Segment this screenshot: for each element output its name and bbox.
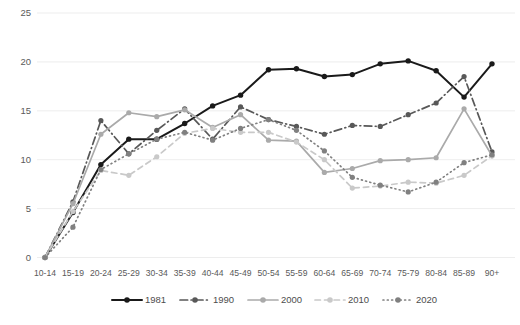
data-point bbox=[266, 130, 271, 135]
y-axis-tick-label: 5 bbox=[26, 203, 31, 214]
data-point bbox=[461, 173, 466, 178]
x-axis-tick-label: 35-39 bbox=[174, 268, 196, 278]
data-point bbox=[266, 117, 271, 122]
x-axis-tick-label: 70-74 bbox=[369, 268, 391, 278]
x-axis-tick-label: 20-24 bbox=[90, 268, 112, 278]
x-axis-tick-label: 15-19 bbox=[62, 268, 84, 278]
data-point bbox=[70, 201, 75, 206]
data-point bbox=[266, 138, 271, 143]
data-point bbox=[238, 112, 243, 117]
data-point bbox=[378, 124, 383, 129]
y-axis-tick-label: 20 bbox=[20, 56, 31, 67]
legend-item-2000[interactable]: 2000 bbox=[248, 294, 302, 305]
data-point bbox=[461, 160, 466, 165]
series-line-1990 bbox=[45, 77, 492, 258]
x-axis-tick-label: 55-59 bbox=[285, 268, 307, 278]
legend-swatch-marker bbox=[260, 297, 266, 303]
data-point bbox=[266, 67, 271, 72]
data-point bbox=[322, 74, 327, 79]
data-point bbox=[378, 61, 383, 66]
series-2000 bbox=[42, 106, 494, 260]
y-axis-tick-label: 0 bbox=[26, 252, 31, 263]
data-point bbox=[322, 157, 327, 162]
legend-swatch-marker bbox=[124, 297, 130, 303]
series-line-2010 bbox=[45, 128, 492, 257]
legend-label: 1981 bbox=[145, 294, 166, 305]
data-point bbox=[350, 72, 355, 77]
data-point bbox=[406, 157, 411, 162]
data-point bbox=[350, 166, 355, 171]
data-point bbox=[42, 255, 47, 260]
data-point bbox=[434, 155, 439, 160]
data-point bbox=[350, 123, 355, 128]
legend-label: 1990 bbox=[213, 294, 234, 305]
data-point bbox=[154, 137, 159, 142]
chart-legend: 19811990200020102020 bbox=[112, 294, 437, 305]
legend-label: 2000 bbox=[281, 294, 302, 305]
data-point bbox=[70, 209, 75, 214]
x-axis-tick-label: 10-14 bbox=[34, 268, 56, 278]
data-point bbox=[378, 158, 383, 163]
data-point bbox=[461, 94, 466, 99]
data-point bbox=[433, 68, 438, 73]
data-point bbox=[210, 126, 215, 131]
data-point bbox=[98, 162, 103, 167]
x-axis-tick-label: 85-89 bbox=[453, 268, 475, 278]
legend-item-1981[interactable]: 1981 bbox=[112, 294, 166, 305]
line-chart: 0510152025 10-1415-1920-2425-2930-3435-3… bbox=[0, 0, 520, 325]
data-point bbox=[378, 183, 383, 188]
data-point bbox=[434, 180, 439, 185]
x-axis-tick-label: 80-84 bbox=[425, 268, 447, 278]
x-axis-tick-label: 50-54 bbox=[258, 268, 280, 278]
x-axis-tick-labels: 10-1415-1920-2425-2930-3435-3940-4445-49… bbox=[34, 268, 499, 278]
x-axis-tick-label: 75-79 bbox=[397, 268, 419, 278]
data-point bbox=[294, 128, 299, 133]
legend-item-1990[interactable]: 1990 bbox=[180, 294, 234, 305]
legend-swatch-marker bbox=[327, 297, 333, 303]
data-point bbox=[489, 61, 494, 66]
data-point bbox=[322, 170, 327, 175]
data-point bbox=[98, 132, 103, 137]
data-point bbox=[126, 136, 131, 141]
data-point bbox=[294, 140, 299, 145]
data-point bbox=[405, 58, 410, 63]
data-point bbox=[434, 100, 439, 105]
data-point bbox=[406, 189, 411, 194]
data-point bbox=[406, 180, 411, 185]
data-point bbox=[154, 128, 159, 133]
y-axis-tick-labels: 0510152025 bbox=[20, 7, 31, 263]
data-series-group bbox=[42, 58, 494, 260]
x-axis-tick-label: 40-44 bbox=[202, 268, 224, 278]
data-point bbox=[126, 110, 131, 115]
data-point bbox=[98, 118, 103, 123]
y-axis-tick-label: 15 bbox=[20, 105, 31, 116]
data-point bbox=[238, 104, 243, 109]
data-point bbox=[126, 173, 131, 178]
series-2010 bbox=[42, 126, 494, 260]
data-point bbox=[154, 154, 159, 159]
legend-label: 2020 bbox=[416, 294, 437, 305]
data-point bbox=[210, 138, 215, 143]
legend-label: 2010 bbox=[348, 294, 369, 305]
x-axis-tick-label: 65-69 bbox=[341, 268, 363, 278]
x-axis-tick-label: 60-64 bbox=[313, 268, 335, 278]
data-point bbox=[238, 126, 243, 131]
data-point bbox=[210, 103, 215, 108]
legend-swatch-marker bbox=[192, 297, 198, 303]
legend-swatch-marker bbox=[395, 297, 401, 303]
data-point bbox=[406, 112, 411, 117]
data-point bbox=[182, 121, 187, 126]
series-1990 bbox=[42, 74, 494, 260]
legend-item-2010[interactable]: 2010 bbox=[315, 294, 369, 305]
data-point bbox=[350, 175, 355, 180]
x-axis-tick-label: 30-34 bbox=[146, 268, 168, 278]
data-point bbox=[322, 132, 327, 137]
data-point bbox=[98, 167, 103, 172]
data-point bbox=[322, 148, 327, 153]
data-point bbox=[70, 225, 75, 230]
data-point bbox=[126, 151, 131, 156]
legend-item-2020[interactable]: 2020 bbox=[383, 294, 437, 305]
data-point bbox=[182, 107, 187, 112]
data-point bbox=[238, 92, 243, 97]
data-point bbox=[154, 114, 159, 119]
